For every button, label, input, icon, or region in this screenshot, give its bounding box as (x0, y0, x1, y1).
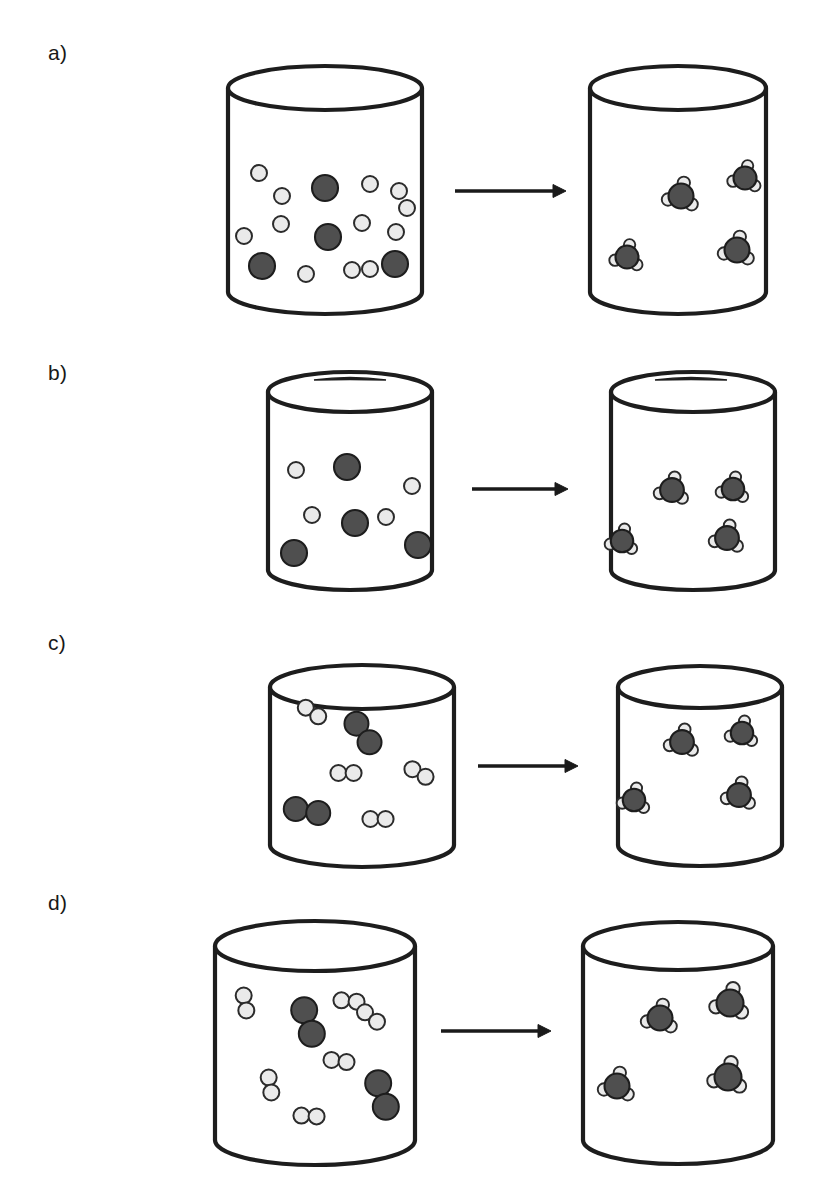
panel-c (270, 665, 782, 867)
panel-a-product-group (590, 66, 766, 314)
panel-a-hydrogen-atom-4 (236, 228, 252, 244)
panel-a-hydrogen-atom-11-sphere (354, 215, 370, 231)
panel-d-hydrogen-molecule-1-atom-2 (238, 1002, 254, 1018)
panel-a-hydrogen-atom-1-sphere (251, 165, 267, 181)
reaction-figure: a) b) c) d) (0, 0, 823, 1182)
panel-a-ammonia-molecule-4-nitrogen (725, 238, 750, 263)
clipped-caption-fragment (0, 0, 823, 3)
panel-a-nitrogen-atom-3 (249, 253, 275, 279)
panel-b-hydrogen-atom-1-sphere (288, 462, 304, 478)
panel-a-nitrogen-atom-1-sphere (312, 175, 338, 201)
panel-c-hydrogen-molecule-1-atom-2 (310, 708, 326, 724)
panel-a-hydrogen-atom-2 (274, 188, 290, 204)
panel-c-hydrogen-molecule-2-atom-2 (346, 765, 362, 781)
panel-d-reaction-arrow[interactable] (441, 1025, 551, 1038)
panel-b-product-vessel (611, 372, 775, 590)
panel-c-hydrogen-molecule-2-atom-1 (330, 765, 346, 781)
panel-a-hydrogen-atom-13-sphere (362, 261, 378, 277)
panel-label-d: d) (48, 892, 67, 913)
panel-c-reactant-group (270, 665, 454, 867)
panel-b-reactant-group (268, 372, 432, 590)
panel-a-hydrogen-atom-9-sphere (391, 183, 407, 199)
panel-c-reaction-arrow-head (565, 760, 578, 773)
panel-b-nitrogen-atom-2-sphere (342, 510, 368, 536)
panel-a (228, 66, 766, 314)
panel-b (268, 372, 775, 590)
panel-d-reaction-arrow-head (538, 1025, 551, 1038)
panel-c-nitrogen-molecule-1-atom-2 (358, 730, 382, 754)
panel-a-product-vessel-top-rim (590, 66, 766, 110)
panel-a-hydrogen-atom-8 (362, 176, 378, 192)
panel-a-ammonia-molecule-1-nitrogen (669, 184, 694, 209)
panel-b-nitrogen-atom-4 (405, 532, 431, 558)
panel-a-reaction-arrow[interactable] (455, 185, 566, 198)
panel-b-nitrogen-atom-2 (342, 510, 368, 536)
panel-b-product-group (605, 372, 775, 590)
panel-c-hydrogen-molecule-4-atom-1 (362, 811, 378, 827)
panel-c-reactant-vessel-top-rim (270, 665, 454, 709)
panel-c-hydrogen-molecule-4-atom-2 (378, 811, 394, 827)
panel-a-nitrogen-atom-4 (382, 251, 408, 277)
panel-d-hydrogen-molecule-3-atom-2 (369, 1014, 385, 1030)
panel-a-hydrogen-atom-2-sphere (274, 188, 290, 204)
panel-c-ammonia-molecule-2-nitrogen (731, 722, 754, 745)
panel-a-hydrogen-atom-3 (273, 216, 289, 232)
panel-b-hydrogen-atom-3 (304, 507, 320, 523)
panel-d-nitrogen-molecule-2-atom-1 (365, 1070, 391, 1096)
panel-d-hydrogen-molecule-5-atom-1 (261, 1070, 277, 1086)
panel-d-ammonia-molecule-1-nitrogen (648, 1006, 673, 1031)
panel-c-product-group (617, 666, 782, 866)
panel-a-ammonia-molecule-3-nitrogen (616, 246, 639, 269)
panel-d-product-vessel-top-rim (583, 922, 773, 970)
panel-b-hydrogen-atom-4 (378, 509, 394, 525)
panel-d-reactant-vessel-top-rim (215, 921, 415, 971)
panel-d-hydrogen-molecule-6-atom-2 (309, 1108, 325, 1124)
panel-c-product-vessel (618, 666, 782, 866)
panel-a-nitrogen-atom-2-sphere (315, 224, 341, 250)
panel-a-reactant-vessel-top-rim (228, 66, 422, 110)
panel-a-hydrogen-atom-12-sphere (388, 224, 404, 240)
panel-c-nitrogen-molecule-2-atom-2 (306, 801, 330, 825)
panel-d-nitrogen-molecule-1-atom-1 (291, 997, 317, 1023)
panel-c-reactant-vessel (270, 665, 454, 867)
panel-b-reaction-arrow-head (555, 483, 568, 496)
panel-a-nitrogen-atom-4-sphere (382, 251, 408, 277)
panel-d-hydrogen-molecule-6-atom-1 (293, 1108, 309, 1124)
panel-a-hydrogen-atom-3-sphere (273, 216, 289, 232)
panel-a-hydrogen-atom-10-sphere (399, 200, 415, 216)
panel-a-hydrogen-atom-5 (298, 266, 314, 282)
panel-a-hydrogen-atom-9 (391, 183, 407, 199)
panel-c-hydrogen-molecule-3-atom-2 (418, 769, 434, 785)
diagram-canvas (0, 0, 823, 1182)
panel-c-ammonia-molecule-4-nitrogen (727, 783, 751, 807)
panel-b-hydrogen-atom-4-sphere (378, 509, 394, 525)
panel-b-nitrogen-atom-4-sphere (405, 532, 431, 558)
panel-d-hydrogen-molecule-2-atom-1 (333, 992, 349, 1008)
panel-label-c: c) (48, 632, 66, 653)
panel-b-reaction-arrow[interactable] (472, 483, 568, 496)
panel-b-hydrogen-atom-2-sphere (404, 478, 420, 494)
panel-d-nitrogen-molecule-2-atom-2 (373, 1094, 399, 1120)
panel-a-hydrogen-atom-12 (388, 224, 404, 240)
panel-b-nitrogen-atom-1-sphere (334, 454, 360, 480)
panel-c-ammonia-molecule-3-nitrogen (623, 789, 646, 812)
panel-c-product-vessel-top-rim (618, 666, 782, 708)
panel-label-a: a) (48, 42, 67, 63)
panel-a-hydrogen-atom-5-sphere (298, 266, 314, 282)
panel-d-hydrogen-molecule-1-atom-1 (236, 988, 252, 1004)
panel-d-hydrogen-molecule-5-atom-2 (263, 1084, 279, 1100)
panel-d-nitrogen-molecule-1-atom-2 (299, 1021, 325, 1047)
panel-d-ammonia-molecule-4-nitrogen (715, 1064, 742, 1091)
panel-a-nitrogen-atom-1 (312, 175, 338, 201)
panel-b-nitrogen-atom-3-sphere (281, 540, 307, 566)
panel-b-hydrogen-atom-2 (404, 478, 420, 494)
panel-d-hydrogen-molecule-4-atom-1 (323, 1052, 339, 1068)
panel-b-hydrogen-atom-3-sphere (304, 507, 320, 523)
panel-a-nitrogen-atom-2 (315, 224, 341, 250)
panel-a-ammonia-molecule-2-nitrogen (734, 167, 757, 190)
panel-b-ammonia-molecule-3-nitrogen (611, 530, 634, 553)
panel-c-reaction-arrow[interactable] (478, 760, 578, 773)
panel-b-hydrogen-atom-1 (288, 462, 304, 478)
panel-c-ammonia-molecule-1-nitrogen (670, 730, 694, 754)
panel-c-nitrogen-molecule-2-atom-1 (284, 797, 308, 821)
